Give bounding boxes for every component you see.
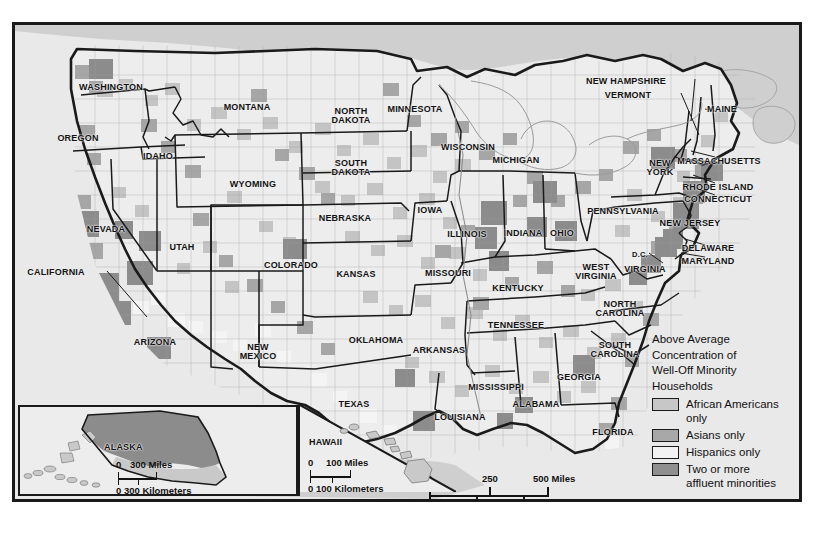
alaska-inset: ALASKA 0 300 Miles 0 300 Kilometers: [18, 405, 298, 496]
legend-label-african-americans-only: African Americans only: [686, 397, 779, 425]
legend-entry-african-americans-only: African Americans only: [652, 397, 802, 425]
legend-label-hispanics-only: Hispanics only: [686, 445, 760, 459]
legend-swatch-two-or-more-affluent-minorities: [652, 463, 679, 476]
legend-entry-asians-only: Asians only: [652, 428, 802, 442]
legend-swatch-hispanics-only: [652, 446, 679, 459]
scale-hawaii-miles-0: 0: [308, 457, 313, 468]
scale-main-miles-500: 500 Miles: [533, 473, 575, 484]
scale-main-miles-250: 250: [482, 473, 498, 484]
scale-hawaii-miles-100: 100 Miles: [326, 457, 368, 468]
legend-entries: African Americans onlyAsians onlyHispani…: [652, 397, 802, 490]
alaska-scale-bar: 0 300 Miles 0 300 Kilometers: [116, 459, 266, 495]
map-screenshot: WASHINGTONOREGONIDAHOMONTANAWYOMINGNEVAD…: [0, 0, 815, 533]
legend-title-line-1: Above Average: [652, 332, 802, 348]
legend-swatch-asians-only: [652, 429, 679, 442]
hawaii-scale-bar: 0 100 Miles 0 100 Kilometers: [308, 457, 448, 493]
legend-title-line-2: Concentration of: [652, 348, 802, 364]
legend-title-line-4: Households: [652, 379, 802, 395]
scale-alaska-km: 0 300 Kilometers: [116, 485, 192, 496]
legend-label-asians-only: Asians only: [686, 428, 745, 442]
scale-hawaii-km: 0 100 Kilometers: [308, 483, 384, 494]
hawaii-inset: HAWAII 0 100 Miles 0 100 Kilometers: [298, 405, 458, 496]
legend-title-line-3: Well-Off Minority: [652, 363, 802, 379]
legend-swatch-african-americans-only: [652, 398, 679, 411]
main-map-frame: WASHINGTONOREGONIDAHOMONTANAWYOMINGNEVAD…: [12, 22, 802, 502]
map-legend: Above Average Concentration of Well-Off …: [652, 332, 802, 490]
legend-entry-hispanics-only: Hispanics only: [652, 445, 802, 459]
scale-alaska-miles-300: 300 Miles: [130, 459, 172, 470]
scale-alaska-miles-0: 0: [116, 459, 121, 470]
legend-label-two-or-more-affluent-minorities: Two or more affluent minorities: [686, 462, 776, 490]
legend-title: Above Average Concentration of Well-Off …: [652, 332, 802, 394]
legend-entry-two-or-more-affluent-minorities: Two or more affluent minorities: [652, 462, 802, 490]
